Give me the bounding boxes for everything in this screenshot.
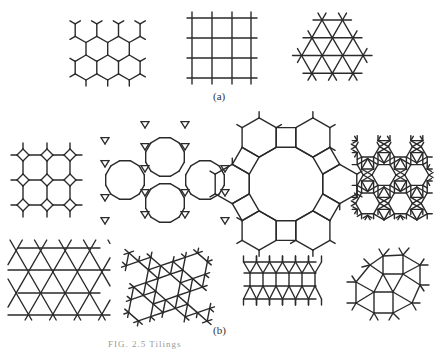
truncated-square-tiling xyxy=(11,143,82,217)
elongated-triangular-tiling xyxy=(244,256,322,305)
rhombitrihexagonal-tiling xyxy=(351,136,433,220)
snub-hexagonal-tiling xyxy=(122,248,215,326)
kagome-tiling xyxy=(8,240,110,320)
truncated-hexagonal-tiling xyxy=(101,122,229,224)
tilings-canvas xyxy=(0,0,439,349)
tiling-figure: (a) (b) FIG. 2.5 Tilings xyxy=(0,0,439,349)
triangular-lattice xyxy=(293,13,373,80)
figure-caption: FIG. 2.5 Tilings xyxy=(108,339,182,349)
square-lattice xyxy=(187,12,257,84)
part-a-label: (a) xyxy=(213,90,225,102)
part-b-label: (b) xyxy=(213,324,226,336)
truncated-trihexagonal-tiling xyxy=(210,112,362,256)
snub-square-tiling xyxy=(347,248,429,320)
honeycomb-lattice xyxy=(70,21,145,86)
